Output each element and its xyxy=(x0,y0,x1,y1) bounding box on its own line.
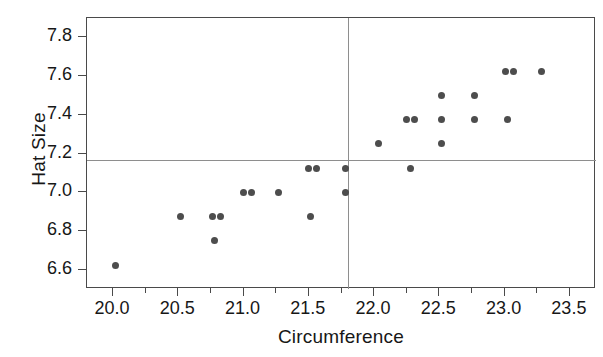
x-axis-minor-tick xyxy=(275,288,276,293)
x-axis-tick xyxy=(243,288,244,296)
x-axis-tick xyxy=(373,288,374,296)
y-axis-tick-label: 6.8 xyxy=(28,219,72,240)
y-axis-tick-label: 6.6 xyxy=(28,258,72,279)
x-axis-tick-label: 22.5 xyxy=(408,298,468,319)
data-point xyxy=(471,92,478,99)
data-point xyxy=(112,262,119,269)
y-axis-tick xyxy=(78,230,86,231)
y-axis-tick-label: 7.2 xyxy=(28,142,72,163)
x-axis-tick-label: 20.0 xyxy=(82,298,142,319)
data-point xyxy=(504,116,511,123)
data-point xyxy=(275,189,282,196)
y-axis-tick xyxy=(78,75,86,76)
data-point xyxy=(407,165,414,172)
data-point xyxy=(211,237,218,244)
data-point xyxy=(342,189,349,196)
data-point xyxy=(510,68,517,75)
y-axis-tick-label: 7.6 xyxy=(28,64,72,85)
y-axis-tick-label: 7.4 xyxy=(28,103,72,124)
x-axis-tick xyxy=(177,288,178,296)
data-point xyxy=(177,213,184,220)
x-axis-minor-tick xyxy=(210,288,211,293)
data-point xyxy=(403,116,410,123)
x-axis-minor-tick xyxy=(536,288,537,293)
reference-line-mean-circumference xyxy=(348,18,349,289)
data-point xyxy=(217,213,224,220)
y-axis-tick-label: 7.0 xyxy=(28,180,72,201)
data-point xyxy=(538,68,545,75)
x-axis-tick xyxy=(569,288,570,296)
x-axis-tick-label: 22.0 xyxy=(343,298,403,319)
y-axis-tick xyxy=(78,191,86,192)
x-axis-minor-tick xyxy=(145,288,146,293)
data-point xyxy=(471,116,478,123)
y-axis-tick xyxy=(78,36,86,37)
x-axis-minor-tick xyxy=(341,288,342,293)
x-axis-tick xyxy=(438,288,439,296)
x-axis-tick xyxy=(308,288,309,296)
reference-line-mean-hat-size xyxy=(87,160,596,161)
scatter-plot-figure: Hat Size Circumference 6.66.87.07.27.47.… xyxy=(0,0,603,357)
data-point xyxy=(438,116,445,123)
x-axis-tick-label: 21.0 xyxy=(213,298,273,319)
y-axis-tick-label: 7.8 xyxy=(28,25,72,46)
x-axis-tick-label: 21.5 xyxy=(278,298,338,319)
y-axis-tick xyxy=(78,269,86,270)
data-point xyxy=(209,213,216,220)
data-point xyxy=(438,140,445,147)
data-point xyxy=(240,189,247,196)
data-point xyxy=(411,116,418,123)
x-axis-minor-tick xyxy=(471,288,472,293)
x-axis-tick-label: 20.5 xyxy=(147,298,207,319)
plot-area xyxy=(86,17,595,288)
data-point xyxy=(375,140,382,147)
x-axis-title: Circumference xyxy=(86,326,596,348)
y-axis-tick xyxy=(78,114,86,115)
x-axis-tick-label: 23.0 xyxy=(474,298,534,319)
x-axis-tick xyxy=(504,288,505,296)
data-point xyxy=(305,165,312,172)
data-point xyxy=(313,165,320,172)
data-point xyxy=(342,165,349,172)
x-axis-minor-tick xyxy=(406,288,407,293)
data-point xyxy=(438,92,445,99)
data-point xyxy=(307,213,314,220)
x-axis-tick-label: 23.5 xyxy=(539,298,599,319)
data-point xyxy=(248,189,255,196)
y-axis-tick xyxy=(78,153,86,154)
x-axis-tick xyxy=(112,288,113,296)
data-point xyxy=(502,68,509,75)
